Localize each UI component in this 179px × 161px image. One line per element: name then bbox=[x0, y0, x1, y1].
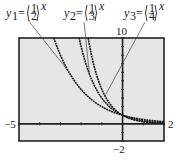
svg-text:x: x bbox=[158, 0, 165, 13]
svg-text:y: y bbox=[63, 6, 70, 20]
svg-text:=: = bbox=[18, 6, 25, 20]
svg-text:x: x bbox=[40, 0, 47, 13]
equation-labels: y1=12xy2=13xy3=14x bbox=[5, 0, 165, 23]
svg-text:x: x bbox=[98, 0, 105, 13]
x-max-label: 2 bbox=[168, 118, 174, 130]
label-y3: y3=14x bbox=[123, 0, 165, 23]
x-min-label: −5 bbox=[4, 118, 16, 130]
y-min-label: −2 bbox=[113, 143, 125, 155]
label-y1: y1=12x bbox=[5, 0, 47, 23]
svg-text:=: = bbox=[76, 6, 83, 20]
svg-text:4: 4 bbox=[149, 9, 155, 23]
svg-text:y: y bbox=[5, 6, 12, 20]
svg-text:3: 3 bbox=[89, 9, 95, 23]
label-y2: y2=13x bbox=[63, 0, 105, 23]
y-max-label: 10 bbox=[116, 25, 128, 37]
exponential-graph: −5 2 10 −2 y1=12xy2=13xy3=14x bbox=[0, 0, 179, 161]
svg-text:=: = bbox=[136, 6, 143, 20]
svg-text:2: 2 bbox=[31, 9, 37, 23]
svg-text:y: y bbox=[123, 6, 130, 20]
